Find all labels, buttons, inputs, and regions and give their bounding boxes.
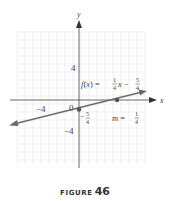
svg-text:1: 1: [113, 77, 116, 83]
tick-label-x-neg4: −4: [36, 104, 46, 114]
svg-text:4: 4: [136, 85, 139, 91]
caption-number: 46: [95, 185, 110, 198]
tick-label-y-4: 4: [71, 63, 76, 73]
caption-word: FIGURE: [60, 189, 93, 197]
line-arrow-right-icon: [139, 90, 148, 96]
grid: [17, 32, 145, 164]
function-label: f(x) = 1 4 x − 5 4: [81, 77, 140, 91]
x-intercept-point: [115, 98, 119, 102]
figure-caption: FIGURE46: [0, 180, 170, 199]
y-axis-arrow-icon: [76, 20, 82, 28]
x-axis-label: x: [159, 96, 164, 105]
tick-label-origin: 0: [69, 103, 74, 113]
svg-text:4: 4: [135, 119, 138, 125]
slope-label: m = 1 4: [112, 111, 139, 125]
svg-text:f(x) =: f(x) =: [81, 79, 100, 89]
svg-text:x −: x −: [117, 79, 129, 89]
x-axis-arrow-icon: [149, 97, 157, 103]
svg-text:m =: m =: [112, 113, 125, 123]
y-intercept-label: − 5 4: [80, 111, 90, 125]
line-arrow-left-icon: [9, 120, 19, 126]
svg-text:5: 5: [136, 77, 139, 83]
svg-text:1: 1: [135, 111, 138, 117]
y-axis-label: y: [76, 10, 81, 19]
svg-text:4: 4: [113, 85, 116, 91]
function-graph: x y −4 0 4 −4 f(x) = 1 4 x − 5 4 − 5 4 m…: [0, 0, 170, 201]
svg-text:5: 5: [86, 111, 89, 117]
tick-label-y-neg4: −4: [64, 126, 74, 136]
svg-text:4: 4: [86, 119, 89, 125]
svg-text:−: −: [80, 112, 85, 121]
